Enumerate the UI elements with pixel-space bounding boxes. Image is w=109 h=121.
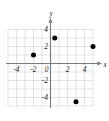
data-point — [31, 53, 36, 58]
x-tick-label: -2 — [30, 65, 36, 74]
x-axis-label: x — [102, 61, 107, 69]
coordinate-plane-figure: -4-202442-2-4 xy — [0, 0, 109, 121]
scatter-plot-svg: -4-202442-2-4 xy — [0, 0, 109, 121]
axis-name-labels: xy — [48, 10, 107, 69]
y-tick-label: 4 — [44, 25, 48, 34]
x-tick-label: 4 — [83, 65, 87, 74]
y-axis-label: y — [48, 10, 53, 18]
y-tick-label: -4 — [42, 93, 48, 102]
data-point — [91, 44, 96, 49]
data-point — [74, 99, 79, 104]
axis-lines — [6, 18, 102, 108]
y-axis-arrowhead — [48, 18, 52, 23]
x-tick-label: 0 — [45, 65, 49, 74]
x-tick-label: -4 — [13, 65, 19, 74]
y-tick-label: -2 — [42, 76, 48, 85]
x-tick-label: 2 — [66, 65, 70, 74]
x-axis-arrowhead — [97, 61, 102, 65]
y-tick-label: 2 — [44, 42, 48, 51]
data-point — [52, 36, 57, 41]
